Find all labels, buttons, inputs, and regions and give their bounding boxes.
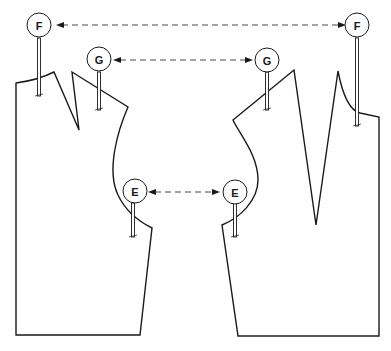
marker-label-g: G bbox=[263, 55, 272, 67]
pattern-diagram: F F G G E E bbox=[0, 0, 391, 351]
marker-label-e: E bbox=[231, 187, 238, 199]
g-arrow-right-icon bbox=[245, 57, 253, 63]
e-arrow-right-icon bbox=[212, 189, 220, 195]
g-arrow-left-icon bbox=[113, 57, 121, 63]
marker-label-f: F bbox=[354, 20, 361, 32]
f-arrow-left-icon bbox=[56, 22, 64, 28]
e-arrow-left-icon bbox=[148, 189, 156, 195]
marker-label-e: E bbox=[131, 186, 138, 198]
marker-label-f: F bbox=[36, 20, 43, 32]
marker-label-g: G bbox=[95, 54, 104, 66]
